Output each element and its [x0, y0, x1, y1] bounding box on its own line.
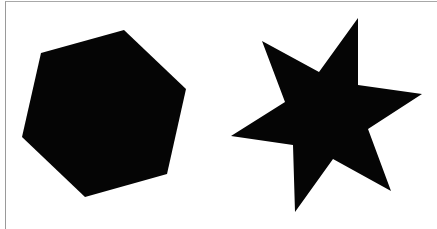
star-shape	[231, 18, 422, 212]
hexagon-shape	[22, 30, 186, 197]
shapes-canvas	[0, 0, 437, 229]
